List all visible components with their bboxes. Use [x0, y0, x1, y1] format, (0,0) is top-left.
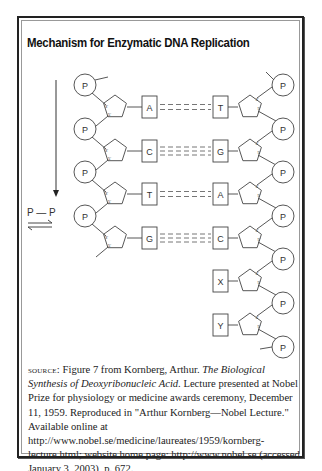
sugar-5prime-label: 5': [258, 106, 261, 111]
equilibrium-arrow-icon: [28, 220, 52, 230]
phosphate-label: P: [82, 212, 88, 222]
phosphate-label: P: [280, 255, 286, 265]
base-label-right: Y: [217, 321, 223, 331]
phosphate-label: P: [280, 212, 286, 222]
sugar-5prime-label: 5': [258, 193, 261, 198]
backbone-bond: [92, 137, 106, 149]
sugar-3prime-label: 3': [105, 191, 108, 196]
sugar-5prime-label: 5': [108, 112, 111, 117]
sugar-3prime-label: 3': [105, 235, 108, 240]
phosphate-label: P: [280, 168, 286, 178]
backbone-bond: [258, 198, 276, 208]
phosphate-label: P: [280, 299, 286, 309]
right-strand: P3'5'TP3'5'GP3'5'AP3'5'CP3'5'XP3'5'YP: [213, 72, 294, 358]
backbone-bond: [257, 305, 272, 316]
backbone-bond: [96, 160, 108, 170]
strand-end-line: [95, 77, 108, 80]
base-label-right: G: [217, 147, 224, 157]
base-label-right: A: [217, 190, 223, 200]
sugar-3prime-label: 3': [256, 97, 259, 102]
caption-text-2: Lecture presented at Nobel Prize for phy…: [28, 378, 300, 471]
phosphate-label: P: [280, 125, 286, 135]
left-strand: P3'5'AP3'5'CP3'5'TP3'5'G: [74, 74, 157, 257]
sugar-5prime-label: 5': [258, 150, 261, 155]
base-label-left: T: [147, 190, 153, 200]
caption-source-label: SOURCE:: [28, 364, 60, 375]
backbone-bond: [258, 329, 276, 339]
backbone-bond: [96, 203, 108, 213]
backbone-bond: [257, 131, 272, 142]
backbone-bond: [258, 285, 276, 295]
pyrophosphate-label: P — P: [27, 207, 56, 218]
strand-end-line: [260, 347, 272, 349]
backbone-bond: [92, 180, 106, 192]
backbone-bond: [257, 174, 272, 185]
phosphate-label: P: [82, 168, 88, 178]
sugar-3prime-label: 3': [256, 184, 259, 189]
sugar-5prime-label: 5': [108, 243, 111, 248]
phosphate-label: P: [280, 81, 286, 91]
base-label-right: C: [217, 234, 224, 244]
base-label-left: G: [146, 234, 153, 244]
base-label-left: C: [146, 147, 153, 157]
base-label-right: X: [217, 277, 223, 287]
backbone-bond: [96, 116, 108, 126]
base-label-left: A: [146, 103, 152, 113]
sugar-5prime-label: 5': [258, 237, 261, 242]
sugar-3prime-label: 3': [105, 104, 108, 109]
backbone-bond: [257, 87, 272, 98]
direction-arrow-icon: [53, 80, 59, 197]
sugar-3prime-label: 3': [105, 148, 108, 153]
figure-caption: SOURCE: Figure 7 from Kornberg, Arthur. …: [28, 363, 304, 471]
caption-text-1: Figure 7 from Kornberg, Arthur.: [60, 364, 202, 375]
phosphate-label: P: [280, 343, 286, 353]
backbone-bond: [257, 261, 272, 272]
backbone-bond: [258, 242, 276, 252]
sugar-5prime-label: 5': [258, 280, 261, 285]
base-label-right: T: [218, 103, 224, 113]
sugar-3prime-label: 3': [256, 271, 259, 276]
backbone-bond: [92, 93, 106, 105]
hydrogen-bonds: [160, 105, 211, 243]
strand-end-line: [266, 72, 274, 80]
phosphate-label: P: [82, 81, 88, 91]
phosphate-label: P: [82, 125, 88, 135]
sugar-5prime-label: 5': [108, 156, 111, 161]
sugar-3prime-label: 3': [256, 315, 259, 320]
backbone-bond: [257, 218, 272, 229]
backbone-bond: [258, 155, 276, 165]
backbone-bond: [258, 111, 276, 121]
backbone-bond: [96, 247, 108, 257]
sugar-3prime-label: 3': [256, 228, 259, 233]
backbone-bond: [92, 224, 106, 236]
sugar-3prime-label: 3': [256, 141, 259, 146]
sugar-5prime-label: 5': [108, 199, 111, 204]
sugar-5prime-label: 5': [258, 324, 261, 329]
